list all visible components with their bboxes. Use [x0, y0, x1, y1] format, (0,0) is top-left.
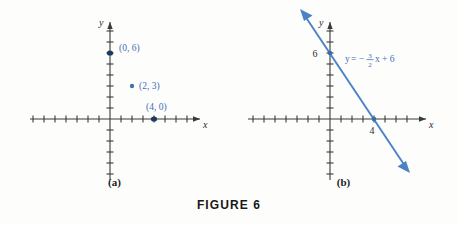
panel-a-scatter: x y (0, 6) (2, 3) (4, 0) (a) — [0, 0, 229, 200]
x-axis-label: x — [202, 119, 208, 130]
point-marker-0-6 — [107, 50, 113, 55]
x-intercept-marker — [372, 117, 377, 122]
point-label-4-0: (4, 0) — [146, 102, 167, 113]
equation-variable: x — [375, 54, 380, 64]
equation-annotation: y = − 3 2 x + 6 — [345, 52, 395, 69]
x-axis-group-a — [30, 116, 200, 123]
y-intercept-marker — [328, 51, 333, 56]
x-axis-arrow-icon — [419, 116, 426, 121]
line-graph-stroke — [305, 16, 405, 166]
point-marker-4-0 — [151, 116, 157, 121]
point-label-0-6: (0, 6) — [119, 43, 140, 54]
y-axis-group-b — [327, 22, 334, 180]
x-intercept-label: 4 — [370, 125, 375, 136]
point-marker-2-3 — [130, 84, 134, 88]
x-axis-group-b — [248, 116, 426, 123]
line-arrow-end-icon — [398, 161, 411, 173]
y-axis-arrow-icon — [107, 22, 112, 29]
y-axis-group-a — [107, 22, 114, 180]
panel-b-line-graph: x y 6 4 y = − 3 2 x + 6 (b) — [229, 0, 458, 200]
panel-b-graph: x y 6 4 y = − 3 2 x + 6 — [229, 0, 458, 200]
y-intercept-label: 6 — [313, 48, 318, 59]
x-axis-arrow-icon — [193, 116, 200, 121]
panel-a-graph: x y (0, 6) (2, 3) (4, 0) — [0, 0, 229, 200]
y-axis-arrow-icon — [327, 22, 332, 29]
equation-denominator: 2 — [368, 61, 372, 69]
panel-a-caption: (a) — [0, 176, 229, 188]
y-axis-label: y — [98, 17, 104, 28]
x-axis-label: x — [428, 119, 434, 130]
line-arrow-start-icon — [300, 9, 313, 21]
figure-caption: FIGURE 6 — [0, 198, 458, 212]
equation-equals-minus: = − — [351, 54, 364, 64]
panel-b-caption: (b) — [229, 176, 458, 188]
equation-lhs: y — [345, 54, 350, 64]
figure-6-container: x y (0, 6) (2, 3) (4, 0) (a) — [0, 0, 458, 225]
equation-numerator: 3 — [368, 52, 372, 60]
point-label-2-3: (2, 3) — [139, 81, 160, 92]
equation-constant: + 6 — [382, 54, 395, 64]
y-axis-label: y — [318, 17, 324, 28]
